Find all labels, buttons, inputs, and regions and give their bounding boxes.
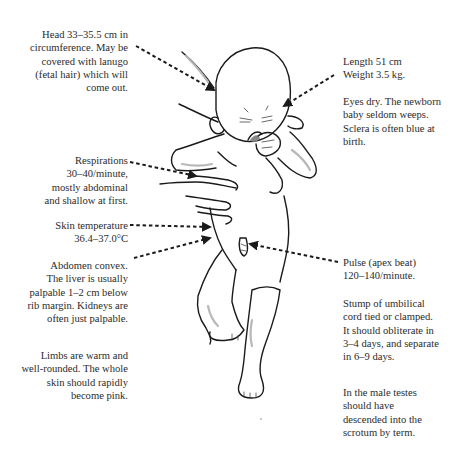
- arrow-pulse: [250, 244, 338, 262]
- arrow-skin-temperature: [130, 225, 210, 227]
- annotation-abdomen: Abdomen convex. The liver is usually pal…: [6, 259, 128, 325]
- annotation-length-weight: Length 51 cm Weight 3.5 kg.: [343, 55, 468, 82]
- adult-hand-upper: [179, 52, 218, 122]
- infant-torso: [160, 134, 289, 282]
- annotation-limbs: Limbs are warm and well-rounded. The who…: [6, 349, 128, 402]
- annotation-respirations: Respirations 30–40/minute, mostly abdomi…: [6, 154, 128, 207]
- adult-hand-right: [278, 116, 316, 178]
- annotation-umbilical: Stump of umbilical cord tied or clamped.…: [343, 297, 468, 363]
- infant-legs: [197, 250, 280, 398]
- annotation-head: Head 33–35.5 cm in circumference. May be…: [6, 28, 128, 94]
- pointer-arrows: [130, 46, 338, 262]
- stray-dot: [260, 418, 262, 420]
- infant-head: [210, 48, 290, 142]
- annotation-eyes: Eyes dry. The newborn baby seldom weeps.…: [343, 95, 468, 148]
- arrow-abdomen: [134, 238, 210, 258]
- arrow-length-weight: [284, 75, 334, 106]
- arrow-head: [136, 46, 214, 90]
- annotation-testes: In the male testes should have descended…: [343, 386, 468, 439]
- annotation-skin-temperature: Skin temperature 36.4–37.0°C: [6, 219, 128, 246]
- annotation-pulse: Pulse (apex beat) 120–140/minute.: [343, 256, 468, 283]
